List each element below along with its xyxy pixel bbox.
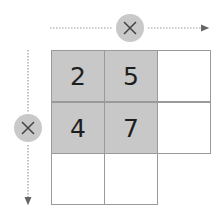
multiply-icon [20,120,36,136]
grid-cell: 7 [104,102,158,154]
multiply-icon [122,20,138,36]
grid-cell [157,50,211,102]
grid-cell [51,153,105,205]
grid-cell: 4 [51,102,105,154]
grid-cell: 5 [104,50,158,102]
grid-cell: 2 [51,50,105,102]
multiply-operator-left [14,114,42,142]
grid-cell [157,102,211,154]
multiply-operator-top [116,14,144,42]
grid-cell [104,153,158,205]
